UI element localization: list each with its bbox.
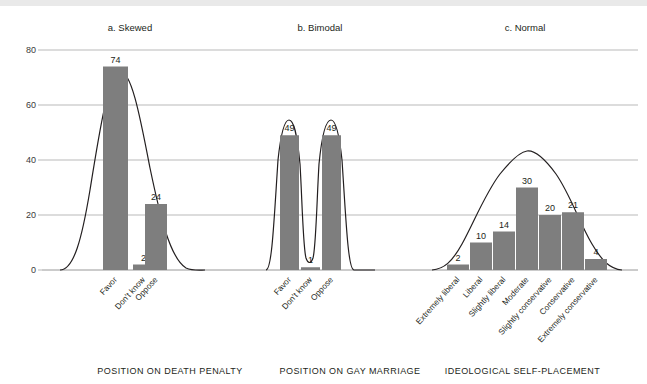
bar-value-label: 24 bbox=[151, 192, 161, 202]
bar-value-label: 1 bbox=[308, 255, 313, 265]
caption-ideology: IDEOLOGICAL SELF-PLACEMENT bbox=[400, 366, 645, 376]
bar-value-label: 4 bbox=[593, 247, 598, 257]
y-tick-label: 80 bbox=[26, 45, 36, 55]
x-category-label: Favor bbox=[98, 275, 119, 297]
bar-value-label: 74 bbox=[110, 55, 120, 65]
x-category-label: Extremely liberal bbox=[414, 275, 461, 326]
y-tick-label: 0 bbox=[31, 265, 36, 275]
bar-value-label: 2 bbox=[455, 253, 460, 263]
bar-value-label: 20 bbox=[545, 203, 555, 213]
bar bbox=[447, 265, 469, 271]
y-tick-label: 40 bbox=[26, 155, 36, 165]
bar-value-label: 49 bbox=[284, 123, 294, 133]
y-tick-label: 20 bbox=[26, 210, 36, 220]
bar-value-label: 30 bbox=[522, 176, 532, 186]
bar bbox=[322, 135, 341, 270]
top-band bbox=[0, 0, 647, 6]
bar-value-label: 49 bbox=[326, 123, 336, 133]
bar-value-label: 21 bbox=[568, 200, 578, 210]
y-tick-label: 60 bbox=[26, 100, 36, 110]
distribution-curve-panel-a bbox=[60, 72, 205, 270]
bar bbox=[539, 215, 561, 270]
bar bbox=[301, 267, 320, 270]
bar-value-label: 10 bbox=[476, 231, 486, 241]
x-category-label: Oppose bbox=[309, 275, 335, 303]
plot-canvas: 02040608074Favor2Don't know24Oppose49Fav… bbox=[0, 20, 647, 360]
bar bbox=[493, 232, 515, 271]
bar bbox=[280, 135, 299, 270]
bar bbox=[585, 259, 607, 270]
bar bbox=[103, 67, 128, 271]
bar bbox=[562, 212, 584, 270]
chart-figure: Percentage of respondents a. Skewed b. B… bbox=[0, 0, 647, 384]
bar-value-label: 14 bbox=[499, 220, 509, 230]
bar bbox=[145, 204, 167, 270]
bar bbox=[470, 243, 492, 271]
bar bbox=[516, 188, 538, 271]
